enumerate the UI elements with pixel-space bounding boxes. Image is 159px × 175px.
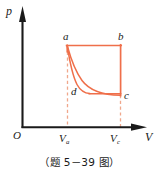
tick-label-vc: Vc [110,133,120,144]
tick-label-vc-sub: c [117,138,120,145]
pv-diagram [0,0,159,175]
tick-label-vc-base: V [110,132,117,144]
axis-label-p: p [6,5,12,17]
tick-label-va: Va [59,133,69,144]
point-label-b: b [118,31,124,42]
point-label-a: a [63,31,69,42]
point-label-d: d [71,86,77,97]
point-label-c: c [124,90,129,101]
axis-origin-label: O [13,130,21,141]
figure-caption: （题 5－39 图） [0,154,159,169]
tick-label-va-base: V [59,132,66,144]
figure-container: p V O a b c d Va Vc （题 5－39 图） [0,0,159,175]
tick-label-va-sub: a [66,138,69,145]
axis-label-v: V [145,131,152,143]
axis-p-arrowhead [19,6,26,22]
